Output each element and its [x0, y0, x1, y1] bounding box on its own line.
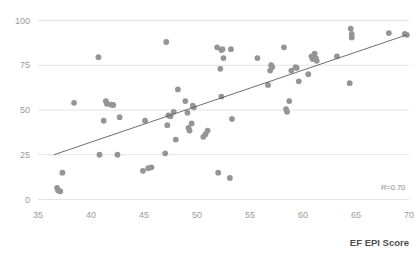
data-point [215, 170, 221, 176]
y-tick-label: 0 [25, 195, 30, 205]
x-tick-label: 55 [245, 210, 255, 220]
data-point [162, 150, 168, 156]
data-point [348, 26, 354, 32]
x-axis-ticks: 3540455055606570 [33, 210, 414, 220]
data-point [57, 188, 63, 194]
data-point [140, 168, 146, 174]
data-point [96, 54, 102, 60]
scatter-chart: 02550751003540455055606570R=0.70EF EPI S… [0, 0, 419, 263]
x-axis-title: EF EPI Score [350, 237, 409, 248]
data-point [110, 102, 116, 108]
y-tick-label: 100 [15, 16, 30, 26]
plot-area: 02550751003540455055606570R=0.70EF EPI S… [0, 0, 419, 263]
data-point [101, 118, 107, 124]
data-point [229, 116, 235, 122]
data-point [205, 128, 211, 134]
y-axis-ticks: 0255075100 [15, 16, 30, 205]
data-point [347, 80, 353, 86]
data-point [71, 100, 77, 106]
data-point [59, 170, 65, 176]
data-point [386, 30, 392, 36]
data-point [189, 121, 195, 127]
data-point [349, 35, 355, 41]
data-point [149, 164, 155, 170]
trendline [54, 35, 407, 155]
data-point [117, 114, 123, 120]
annotation-correlation: R=0.70 [381, 183, 405, 192]
data-point [187, 128, 193, 134]
x-tick-label: 60 [298, 210, 308, 220]
data-point [185, 110, 191, 116]
data-point [286, 98, 292, 104]
data-point [220, 46, 226, 52]
data-point [221, 55, 227, 61]
data-point [182, 98, 188, 104]
data-point [217, 66, 223, 72]
x-tick-label: 40 [86, 210, 96, 220]
x-tick-label: 50 [192, 210, 202, 220]
x-tick-label: 45 [139, 210, 149, 220]
data-point [284, 109, 290, 115]
data-point [175, 87, 181, 93]
x-tick-label: 35 [33, 210, 43, 220]
data-point [227, 175, 233, 181]
y-tick-label: 75 [20, 60, 30, 70]
data-point [296, 78, 302, 84]
data-point [281, 44, 287, 50]
data-point [305, 71, 311, 77]
data-point [163, 39, 169, 45]
data-point [97, 152, 103, 158]
data-point [255, 55, 261, 61]
data-point [115, 152, 121, 158]
y-tick-label: 25 [20, 150, 30, 160]
data-point [314, 58, 320, 64]
x-tick-label: 70 [404, 210, 414, 220]
data-point [228, 46, 234, 52]
data-point [173, 137, 179, 143]
data-point [294, 65, 300, 71]
data-point [269, 64, 275, 70]
y-tick-label: 50 [20, 105, 30, 115]
x-tick-label: 65 [351, 210, 361, 220]
data-point [164, 122, 170, 128]
